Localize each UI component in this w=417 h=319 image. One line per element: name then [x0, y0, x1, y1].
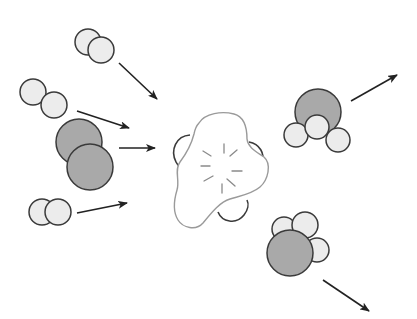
direction-arrow-icon — [351, 75, 397, 101]
catalyst-reaction-diagram — [0, 0, 417, 319]
white-atom — [305, 115, 329, 139]
white-atom — [88, 37, 114, 63]
gray-atom — [67, 144, 113, 190]
direction-arrow-icon — [119, 63, 157, 99]
white-atom — [45, 199, 71, 225]
reactant-diatomic-top — [75, 29, 157, 99]
product-molecule-lower — [267, 212, 369, 311]
white-atom — [41, 92, 67, 118]
reactant-diatomic-gray — [56, 119, 155, 190]
reactant-diatomic-bottom — [29, 199, 127, 225]
direction-arrow-icon — [77, 203, 127, 213]
reactants-group — [20, 29, 157, 225]
gray-atom — [267, 230, 313, 276]
catalyst-body — [175, 113, 269, 228]
products-group — [267, 75, 397, 311]
catalyst — [174, 113, 269, 228]
white-atom — [326, 128, 350, 152]
direction-arrow-icon — [323, 280, 369, 311]
product-molecule-upper — [284, 75, 397, 152]
